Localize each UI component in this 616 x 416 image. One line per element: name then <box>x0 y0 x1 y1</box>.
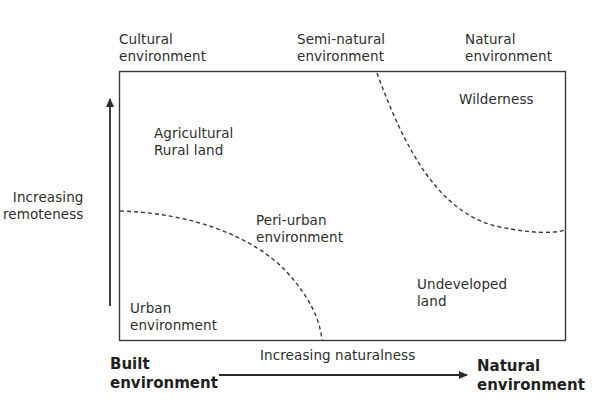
wilderness-label: Wilderness <box>459 91 534 108</box>
built-environment-label: Built environment <box>110 355 218 393</box>
increasing-naturalness-label: Increasing naturalness <box>260 347 415 364</box>
cultural-environment-label: Cultural environment <box>119 31 206 65</box>
urban-environment-label: Urban environment <box>130 300 217 334</box>
undeveloped-land-label: Undeveloped land <box>417 276 507 310</box>
agricultural-rural-land-label: Agricultural Rural land <box>154 125 233 159</box>
semi-natural-environment-label: Semi-natural environment <box>297 31 385 65</box>
increasing-remoteness-label: Increasing remoteness <box>3 189 84 223</box>
natural-environment-endpoint-label: Natural environment <box>477 357 585 395</box>
natural-environment-label: Natural environment <box>465 31 552 65</box>
peri-urban-environment-label: Peri-urban environment <box>256 212 343 246</box>
